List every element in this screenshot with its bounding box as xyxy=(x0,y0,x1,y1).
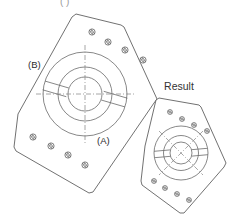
bolt-hole-icon xyxy=(82,162,88,168)
result-label: Result xyxy=(164,80,194,92)
bolt-hole-icon xyxy=(187,198,192,203)
technical-drawing-canvas: ( ) xyxy=(0,0,242,220)
bolt-hole-icon xyxy=(168,110,173,115)
clipped-caption: ( ) xyxy=(60,0,69,7)
bolt-hole-icon xyxy=(122,47,128,53)
bolt-hole-icon xyxy=(48,143,54,149)
bolt-hole-icon xyxy=(180,117,185,122)
bolt-hole-icon xyxy=(175,192,180,197)
bolt-hole-icon xyxy=(192,123,197,128)
bolt-hole-icon xyxy=(89,29,95,35)
label-b: (B) xyxy=(28,59,41,70)
bolt-hole-icon xyxy=(105,39,111,45)
bolt-hole-icon xyxy=(152,179,157,184)
bolt-hole-icon xyxy=(163,186,168,191)
bolt-hole-icon xyxy=(65,152,71,158)
bolt-hole-icon xyxy=(140,57,146,63)
bolt-hole-icon xyxy=(30,134,36,140)
label-a: (A) xyxy=(97,135,110,146)
bolt-hole-icon xyxy=(205,129,210,134)
